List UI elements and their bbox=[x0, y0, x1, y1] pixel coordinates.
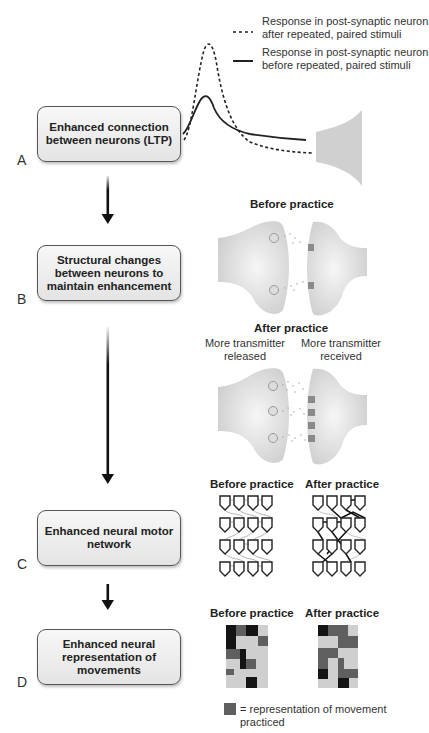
panel-c-after-title: After practice bbox=[305, 478, 379, 490]
representation-legend-text-2: practiced bbox=[240, 716, 285, 729]
representation-legend-text: = representation of movement bbox=[240, 703, 386, 716]
transmitter-received-caption: More transmitter received bbox=[296, 337, 386, 362]
legend-swatch-icon bbox=[224, 703, 236, 715]
motor-network-before bbox=[220, 496, 290, 578]
panel-b-after-title: After practice bbox=[254, 322, 328, 334]
arrow-down-icon bbox=[102, 176, 115, 224]
arrow-down-icon bbox=[102, 584, 115, 610]
arrow-down-icon bbox=[102, 327, 115, 484]
transmitter-released-caption: More transmitter released bbox=[200, 337, 290, 362]
synapse-before-illustration bbox=[215, 218, 375, 318]
representation-map-after bbox=[318, 625, 363, 689]
synapse-after-illustration bbox=[215, 365, 375, 470]
panel-d-before-title: Before practice bbox=[210, 607, 294, 619]
representation-map-before bbox=[226, 625, 271, 689]
panel-c-before-title: Before practice bbox=[210, 478, 294, 490]
motor-network-after bbox=[313, 496, 383, 578]
panel-d-after-title: After practice bbox=[305, 607, 379, 619]
panel-b-before-title: Before practice bbox=[250, 198, 334, 210]
